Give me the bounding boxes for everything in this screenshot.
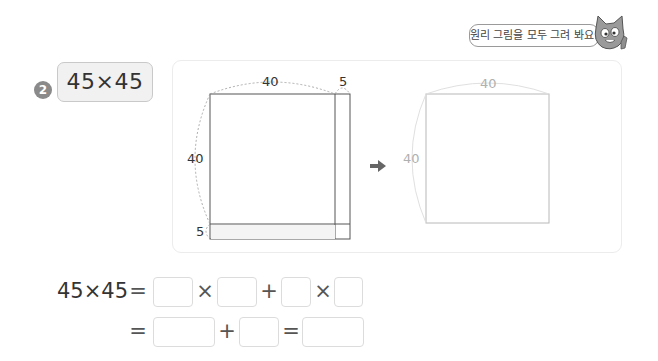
plus-sign: + bbox=[257, 276, 281, 306]
times-sign: × bbox=[193, 276, 217, 306]
label-right-top-40: 40 bbox=[480, 76, 497, 91]
area-model-figures bbox=[0, 0, 658, 361]
equals-sign: = bbox=[126, 276, 150, 306]
blank-3[interactable] bbox=[281, 277, 311, 307]
times-sign-2: × bbox=[311, 276, 335, 306]
plus-sign-line2: + bbox=[215, 316, 239, 346]
equals-sign-line2: = bbox=[126, 316, 150, 346]
blank-result[interactable] bbox=[302, 317, 364, 347]
label-right-side-40: 40 bbox=[403, 151, 420, 166]
blank-5[interactable] bbox=[153, 317, 215, 347]
blank-2[interactable] bbox=[217, 277, 257, 307]
right-arrow-icon bbox=[370, 160, 386, 172]
label-top-40: 40 bbox=[262, 74, 279, 89]
label-side-40: 40 bbox=[187, 151, 204, 166]
equation-lhs: 45×45 bbox=[57, 276, 128, 306]
label-side-5: 5 bbox=[196, 224, 204, 239]
blank-6[interactable] bbox=[239, 317, 279, 347]
label-top-5: 5 bbox=[339, 74, 347, 89]
equals-sign-result: = bbox=[279, 316, 303, 346]
blank-4[interactable] bbox=[334, 277, 363, 307]
blank-1[interactable] bbox=[153, 277, 193, 307]
